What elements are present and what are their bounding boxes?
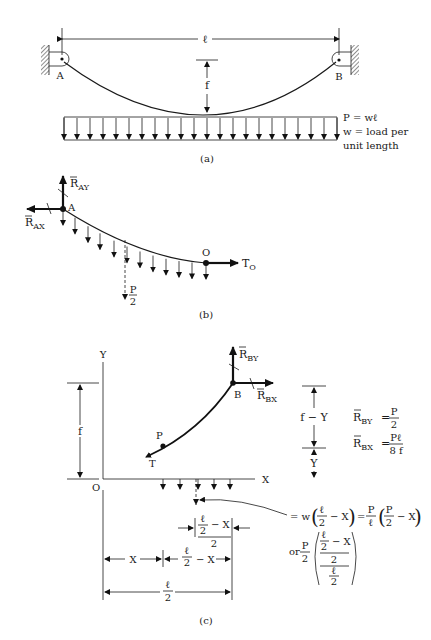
point-b-label: B — [234, 389, 241, 400]
equation-rby: RBY = P 2 — [353, 406, 399, 430]
svg-text:P: P — [391, 406, 398, 417]
svg-text:ℓ: ℓ — [166, 579, 171, 590]
cable-diagram: ℓ A B f P = wℓ w = load per unit length — [0, 0, 431, 640]
load-equation-2: or P 2 ℓ 2 − X 2 ℓ 2 — [289, 529, 356, 587]
tension-t-arrow — [146, 456, 148, 457]
resultant-den: 2 — [130, 296, 136, 307]
svg-text:ℓ: ℓ — [369, 517, 374, 528]
figure-c: Y X O f P T B RBY RBX f − Y Y — [67, 347, 422, 626]
svg-text:(: ( — [311, 505, 319, 529]
axis-y-label: Y — [99, 349, 107, 360]
svg-text:Pℓ: Pℓ — [390, 432, 402, 443]
svg-text:or: or — [289, 546, 300, 557]
dim-y-label: Y — [309, 457, 318, 470]
load-note-p: P = wℓ — [343, 112, 378, 123]
caption-c: (c) — [199, 615, 213, 626]
resultant-num: P — [130, 284, 137, 295]
figure-b: RAY RAX A O TO P 2 (b) — [25, 176, 256, 320]
svg-text:2: 2 — [391, 419, 397, 430]
svg-text:ℓ: ℓ — [320, 504, 325, 515]
axis-x-label: X — [262, 474, 270, 485]
point-o-label: O — [202, 247, 210, 258]
svg-text:= w: = w — [290, 511, 311, 522]
svg-text:− X: − X — [211, 519, 231, 530]
cable-a — [64, 62, 336, 115]
svg-text:2: 2 — [302, 553, 308, 564]
svg-text:ℓ: ℓ — [322, 529, 327, 540]
load-equation-1: = w ( ℓ 2 − X ) = P ℓ ( P 2 − X ) — [290, 504, 422, 529]
svg-text:P: P — [386, 504, 393, 515]
origin-label: O — [92, 482, 100, 493]
equation-rbx: RBX = Pℓ 8 f — [353, 432, 404, 456]
svg-text:− X: − X — [196, 554, 216, 565]
load-arrows-b — [63, 209, 206, 279]
partial-resultant-arrowhead — [193, 499, 199, 505]
pin-right — [337, 58, 340, 61]
svg-text:2: 2 — [331, 554, 337, 565]
leader-line — [200, 500, 287, 515]
tension-to-label: TO — [242, 257, 256, 272]
svg-text:): ) — [348, 505, 356, 529]
svg-text:P: P — [302, 540, 309, 551]
svg-text:2: 2 — [200, 525, 206, 536]
load-note-unit: unit length — [343, 140, 399, 151]
svg-text:2: 2 — [319, 517, 325, 528]
svg-text:2: 2 — [321, 541, 327, 552]
figure-a: ℓ A B f P = wℓ w = load per unit length — [41, 28, 408, 164]
wall-hatch-right — [351, 45, 359, 75]
load-note-w: w = load per — [343, 126, 408, 137]
dim-x-label: X — [129, 554, 137, 565]
dim-half-label: ℓ 2 − X 2 — [198, 513, 231, 549]
sag-label: f — [205, 79, 210, 92]
caption-a: (a) — [200, 153, 214, 164]
svg-text:RBY: RBY — [353, 411, 373, 426]
point-p-dot — [160, 443, 165, 448]
svg-text:ℓ: ℓ — [332, 565, 337, 576]
label-b: B — [335, 71, 342, 82]
svg-text:ℓ: ℓ — [185, 545, 190, 556]
reaction-ax-label: RAX — [25, 216, 45, 231]
svg-text:ℓ: ℓ — [201, 513, 206, 524]
support-clevis-right — [332, 52, 351, 66]
point-p-label: P — [156, 430, 163, 441]
reaction-bx-label: RBX — [257, 389, 277, 404]
distributed-load — [64, 117, 337, 140]
wall-hatch-left — [41, 45, 49, 75]
caption-b: (b) — [199, 309, 213, 320]
tension-t-label: T — [149, 458, 156, 469]
span-label: ℓ — [202, 33, 207, 46]
dim-f-label: f — [78, 425, 83, 438]
svg-text:2: 2 — [184, 557, 190, 568]
label-a: A — [55, 70, 64, 81]
reaction-by-label: RBY — [239, 348, 259, 363]
svg-text:8 f: 8 f — [389, 445, 404, 456]
load-arrows-c — [163, 479, 230, 489]
dim-f-minus-y-label: f − Y — [300, 411, 328, 424]
svg-text:2: 2 — [165, 592, 171, 603]
svg-text:P: P — [368, 504, 375, 515]
dim-l2-label: ℓ 2 — [163, 579, 173, 603]
svg-text:− X: − X — [332, 536, 352, 547]
svg-text:=: = — [357, 511, 365, 522]
resultant-arrowhead — [122, 294, 128, 300]
svg-text:2: 2 — [331, 576, 337, 587]
svg-text:2: 2 — [386, 517, 392, 528]
point-a-label: A — [67, 202, 76, 213]
svg-text:2: 2 — [211, 538, 217, 549]
svg-text:=: = — [381, 411, 390, 424]
cable-b — [63, 209, 206, 263]
pin-left — [60, 57, 63, 60]
reaction-ay-label: RAY — [70, 177, 90, 192]
svg-text:− X: − X — [330, 511, 350, 522]
svg-text:): ) — [414, 505, 422, 529]
svg-text:RBX: RBX — [353, 437, 373, 452]
